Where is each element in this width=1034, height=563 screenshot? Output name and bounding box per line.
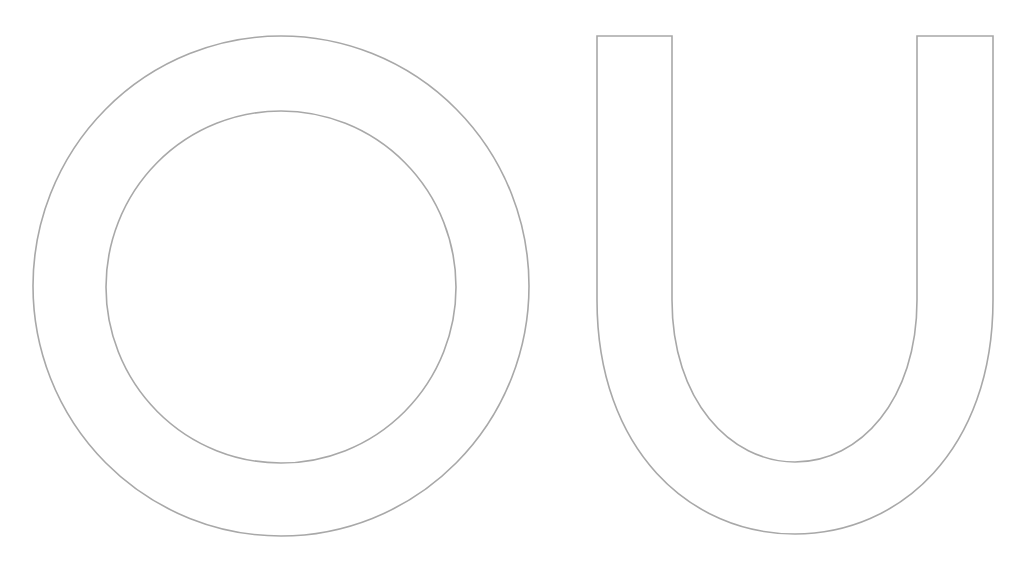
letter-u-outline — [597, 36, 993, 534]
letter-o-outline — [33, 36, 529, 536]
letters-canvas — [0, 0, 1034, 563]
